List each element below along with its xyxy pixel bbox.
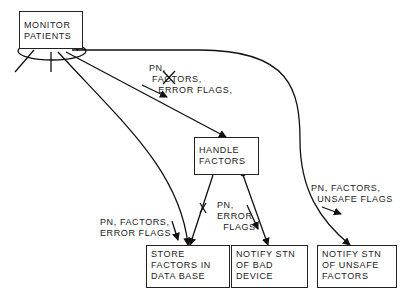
- node-notify-bad-device: NOTIFY STN OF BAD DEVICE: [231, 245, 308, 288]
- node-handle-factors: HANDLE FACTORS: [194, 137, 259, 175]
- node-store-factors: STORE FACTORS IN DATA BASE: [146, 245, 230, 288]
- flow-label-monitor-to-handle: PN, FACTORS, ERROR FLAGS,: [149, 63, 233, 96]
- flow-label-to-unsafe: PN, FACTORS, UNSAFE FLAGS: [311, 183, 393, 205]
- flow-label-to-store: PN, FACTORS, ERROR FLAGS: [100, 217, 171, 239]
- flow-label-to-bad-device: PN, ERROR FLAGS: [217, 200, 256, 233]
- node-monitor-patients: MONITOR PATIENTS: [19, 11, 83, 49]
- node-notify-unsafe-factors: NOTIFY STN OF UNSAFE FACTORS: [317, 245, 397, 288]
